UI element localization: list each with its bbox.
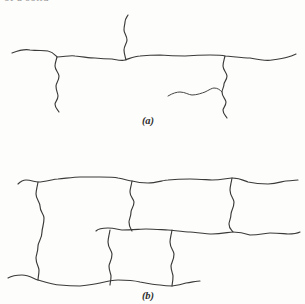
figure-illustration: (a) (b): [0, 0, 305, 304]
panel-b-vertical-left: [36, 182, 44, 280]
panel-b-vertical-upper-mid: [129, 181, 134, 231]
panel-b-vertical-right: [229, 178, 234, 232]
panel-b-vertical-lower-left: [108, 230, 112, 285]
panel-a-label: (a): [142, 115, 154, 127]
panel-a-downward-branch-right: [222, 56, 227, 118]
panel-b-vertical-lower-right: [170, 230, 174, 286]
panel-a-free-squiggle: [168, 88, 222, 96]
panel-b-middle-boundary: [96, 228, 300, 235]
panel-b-label: (b): [142, 290, 154, 302]
panel-a-downward-branch-left: [55, 57, 59, 112]
panel-a-upward-branch-center: [124, 15, 128, 60]
panel-a-main-horizontal-boundary: [12, 50, 296, 61]
figure-page: of a solid (a) (b): [0, 0, 305, 304]
panel-b-top-boundary: [18, 177, 298, 184]
panel-a-group: (a): [12, 15, 296, 127]
panel-b-group: (b): [8, 177, 300, 302]
panel-b-bottom-boundary: [8, 275, 200, 286]
